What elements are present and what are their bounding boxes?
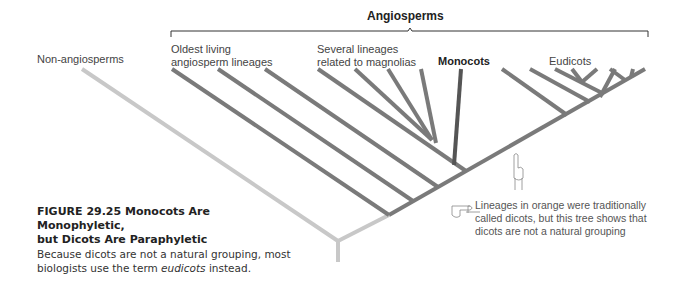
dicots-note: Lineages in orange were traditionally ca… <box>475 199 647 238</box>
angiosperms-label: Angiosperms <box>367 10 444 23</box>
figure-caption: FIGURE 29.25 Monocots Are Monophyletic, … <box>37 205 297 275</box>
oldest-lineages-label: Oldest living angiosperm lineages <box>171 43 273 69</box>
pointing-up-hand-icon <box>514 154 523 191</box>
caption-body: Because dicots are not a natural groupin… <box>37 247 297 275</box>
caption-title: FIGURE 29.25 Monocots Are Monophyletic, … <box>37 205 297 247</box>
magnolias-label: Several lineages related to magnolias <box>317 43 416 69</box>
non-angiosperms-label: Non-angiosperms <box>37 53 124 66</box>
monocot-branch <box>454 69 461 165</box>
dicot-branches <box>172 69 645 215</box>
angiosperms-bracket <box>171 28 648 37</box>
eudicots-label: Eudicots <box>549 55 591 68</box>
monocots-label: Monocots <box>438 55 490 68</box>
